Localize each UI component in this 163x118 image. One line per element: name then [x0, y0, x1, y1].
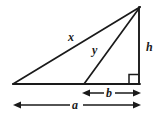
dimension-a-right-arrowhead	[133, 102, 141, 109]
geometry-figure: x y h b a	[0, 0, 163, 118]
triangle-diagram-svg	[0, 0, 163, 118]
dimension-a-left-arrowhead	[13, 102, 21, 109]
dimension-b-left-arrowhead	[82, 90, 90, 97]
label-side-h: h	[146, 41, 153, 53]
dimension-b-right-arrowhead	[133, 90, 141, 97]
side-x-line	[13, 7, 140, 84]
label-side-x: x	[68, 31, 74, 43]
right-angle-icon	[129, 75, 139, 85]
label-dimension-a: a	[72, 99, 78, 111]
label-side-y: y	[92, 44, 97, 56]
label-dimension-b: b	[106, 87, 112, 99]
